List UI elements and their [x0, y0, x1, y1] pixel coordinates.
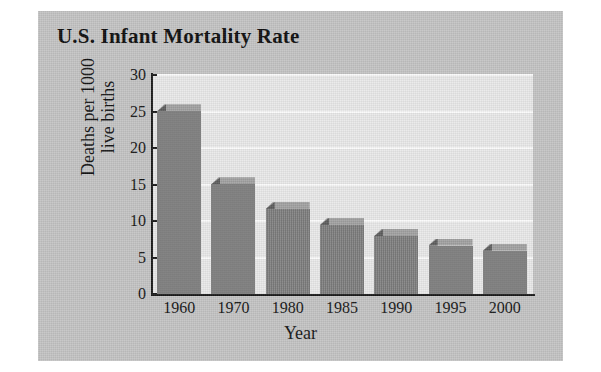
bar	[374, 229, 418, 294]
x-axis-tick-label: 1970	[217, 299, 249, 317]
y-axis-title-line-1: Deaths per 1000	[78, 58, 98, 176]
y-axis-tick-mark	[151, 257, 157, 259]
y-axis-tick-label: 30	[114, 66, 146, 84]
gridline	[153, 74, 533, 76]
y-axis-tick-label: 25	[114, 103, 146, 121]
y-axis-tick-mark	[151, 111, 157, 113]
bar	[483, 244, 527, 294]
y-axis-tick-mark	[151, 147, 157, 149]
bar-front-face	[483, 251, 527, 294]
bar	[429, 239, 473, 294]
y-axis-tick-mark	[151, 184, 157, 186]
y-axis-tick-mark	[151, 220, 157, 222]
x-axis-tick-label: 1985	[326, 299, 358, 317]
bar-front-face	[429, 246, 473, 294]
x-axis-tick-label: 1995	[435, 299, 467, 317]
bar-front-face	[157, 111, 201, 294]
bar-front-face	[211, 184, 255, 294]
gridline	[153, 147, 533, 149]
gridline	[153, 111, 533, 113]
y-axis-tick-label: 20	[114, 139, 146, 157]
x-axis-title: Year	[38, 323, 563, 344]
y-axis-tick-label: 0	[114, 285, 146, 303]
x-axis-tick-label: 1960	[163, 299, 195, 317]
x-axis-tick-label: 2000	[489, 299, 521, 317]
y-axis-tick-mark	[151, 74, 157, 76]
y-axis-tick-mark	[151, 293, 157, 295]
x-axis-tick-label: 1990	[380, 299, 412, 317]
bar	[211, 177, 255, 294]
bar	[266, 202, 310, 294]
chart-figure: U.S. Infant Mortality Rate Deaths per 10…	[38, 11, 563, 361]
bar-front-face	[320, 225, 364, 294]
y-axis-tick-label: 5	[114, 249, 146, 267]
bar	[320, 218, 364, 294]
bar	[157, 104, 201, 294]
gridline	[153, 184, 533, 186]
bar-front-face	[266, 209, 310, 294]
y-axis-tick-label: 15	[114, 176, 146, 194]
x-axis-tick-label: 1980	[272, 299, 304, 317]
y-axis-tick-labels: 051015202530	[110, 11, 146, 372]
bar-front-face	[374, 236, 418, 294]
y-axis-tick-label: 10	[114, 212, 146, 230]
x-axis-line	[151, 294, 535, 296]
